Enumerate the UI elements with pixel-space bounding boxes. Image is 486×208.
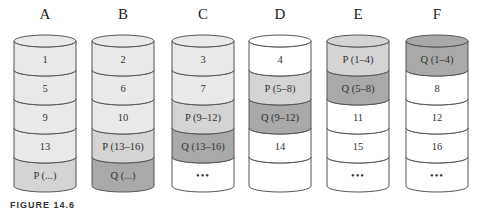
block-label: P (1–4) [343, 54, 374, 66]
disk-d: 14Q (9–12)P (5–8)4 [248, 30, 312, 200]
disk-top-cap [92, 35, 154, 47]
block-label: 10 [118, 112, 129, 123]
block-label: 6 [120, 83, 125, 94]
disk-label-e: E [328, 6, 388, 23]
block-label: P (13–16) [102, 141, 144, 153]
ellipsis-marker: ••• [430, 170, 444, 181]
disk-top-cap [249, 35, 311, 47]
ellipsis-marker: ••• [196, 170, 210, 181]
disk-top-cap [14, 35, 76, 47]
block-label: Q (13–16) [181, 141, 225, 153]
figure-caption: FIGURE 14.6 [10, 200, 75, 208]
block-label: 14 [275, 141, 286, 152]
block-label: Q (1–4) [421, 54, 454, 66]
block-label: 8 [434, 83, 439, 94]
ellipsis-marker: ••• [351, 170, 365, 181]
block-label: 12 [432, 112, 443, 123]
block-label: Q (5–8) [342, 83, 375, 95]
block-label: 13 [40, 141, 51, 152]
block-label: 4 [277, 54, 283, 65]
block-label: 7 [200, 83, 205, 94]
disk-a: P (...)13951 [13, 30, 77, 200]
disk-f: •••16128Q (1–4) [405, 30, 469, 200]
block-label: 3 [200, 54, 205, 65]
disk-top-cap [406, 35, 468, 47]
disk-e: •••1511Q (5–8)P (1–4) [326, 30, 390, 200]
disk-top-cap [172, 35, 234, 47]
disk-label-d: D [250, 6, 310, 23]
block-label: 15 [353, 141, 364, 152]
block-label: P (5–8) [265, 83, 296, 95]
block-label: P (...) [34, 170, 57, 182]
disk-label-a: A [15, 6, 75, 23]
block-label: 16 [432, 141, 443, 152]
disk-label-c: C [173, 6, 233, 23]
disk-top-cap [327, 35, 389, 47]
block-label: 2 [120, 54, 125, 65]
block-label: 11 [353, 112, 363, 123]
block-label: 5 [42, 83, 47, 94]
disk-c: •••Q (13–16)P (9–12)73 [171, 30, 235, 200]
block-label: 1 [42, 54, 47, 65]
disk-label-b: B [93, 6, 153, 23]
block-label: Q (9–12) [261, 112, 300, 124]
disk-label-f: F [407, 6, 467, 23]
block-label: 9 [42, 112, 47, 123]
block-label: Q (...) [110, 170, 136, 182]
disk-b: Q (...)P (13–16)1062 [91, 30, 155, 200]
block-label: P (9–12) [185, 112, 222, 124]
